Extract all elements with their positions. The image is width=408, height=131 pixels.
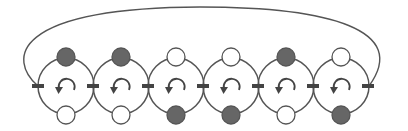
- bottom-node-empty: [277, 106, 295, 124]
- junction-1: [32, 84, 44, 88]
- ring-1: [38, 48, 94, 124]
- ring-4: [203, 48, 259, 124]
- top-node-empty: [222, 48, 240, 66]
- arrowhead-icon: [55, 87, 63, 94]
- ring-2: [93, 48, 149, 124]
- arrowhead-icon: [330, 87, 338, 94]
- ring-5: [258, 48, 314, 124]
- junction-6: [307, 84, 319, 88]
- bottom-node-empty: [112, 106, 130, 124]
- arrowhead-icon: [220, 87, 228, 94]
- ring-3: [148, 48, 204, 124]
- top-node-empty: [167, 48, 185, 66]
- top-node-filled: [277, 48, 295, 66]
- top-node-filled: [112, 48, 130, 66]
- ring-chain-diagram: [0, 0, 408, 131]
- bottom-node-filled: [332, 106, 350, 124]
- bottom-node-empty: [57, 106, 75, 124]
- bottom-node-filled: [167, 106, 185, 124]
- top-node-empty: [332, 48, 350, 66]
- junction-3: [142, 84, 154, 88]
- ring-6: [313, 48, 369, 124]
- junction-7: [362, 84, 374, 88]
- junction-5: [252, 84, 264, 88]
- bottom-node-filled: [222, 106, 240, 124]
- arrowhead-icon: [275, 87, 283, 94]
- arrowhead-icon: [110, 87, 118, 94]
- arrowhead-icon: [165, 87, 173, 94]
- top-node-filled: [57, 48, 75, 66]
- junction-4: [197, 84, 209, 88]
- junction-2: [87, 84, 99, 88]
